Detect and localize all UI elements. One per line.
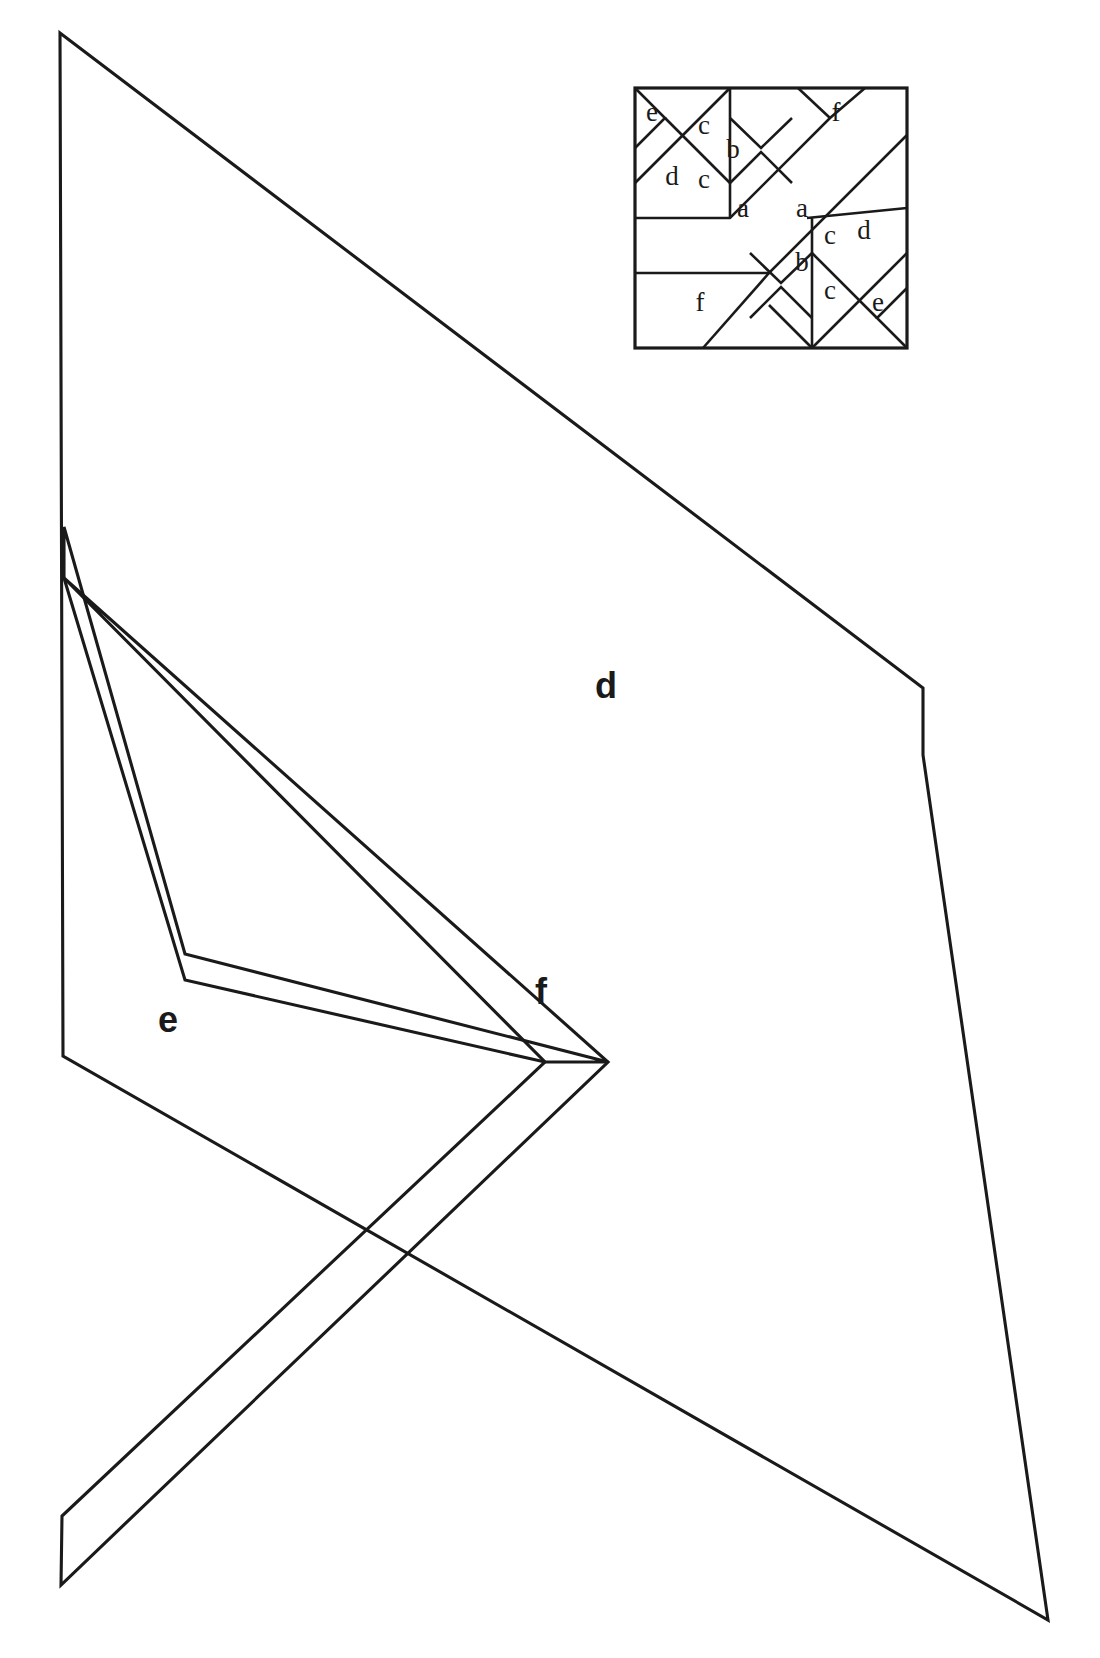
cut-f-top-right — [798, 88, 830, 118]
main-label-d: d — [595, 665, 617, 706]
cut-band-a-lower — [635, 135, 907, 273]
piece-f-outline — [61, 578, 608, 1585]
main-label-f: f — [535, 971, 548, 1012]
cut-d-bottom-diag — [812, 253, 877, 318]
inset-label-c-upper-left: c — [698, 110, 710, 140]
cut-b-lower-lower — [750, 287, 812, 318]
inset-label-a-left: a — [737, 193, 749, 223]
inset-labels: e f c b d c a a c d b f c e — [646, 97, 884, 317]
inset-square-key: e f c b d c a a c d b f c e — [630, 84, 914, 356]
main-piece-e — [64, 527, 608, 1062]
inset-label-a-right: a — [796, 193, 808, 223]
piece-e-outline — [64, 527, 608, 1062]
main-piece-f — [61, 578, 608, 1585]
inset-label-b-upper: b — [726, 134, 740, 164]
inset-label-b-lower: b — [795, 247, 809, 277]
main-dissection-figure: d e f — [0, 0, 1100, 1658]
inset-label-c-upper-lower: c — [698, 164, 710, 194]
main-label-e: e — [158, 999, 178, 1040]
inset-label-e-top: e — [646, 97, 658, 127]
cut-band-a-upper — [635, 88, 865, 218]
inset-label-d-upper: d — [665, 161, 679, 191]
inset-label-f-top: f — [832, 97, 841, 127]
inset-label-d-lower: d — [857, 215, 871, 245]
inset-label-c-lower-lower: c — [824, 275, 836, 305]
inset-svg: e f c b d c a a c d b f c e — [630, 84, 914, 356]
figure-canvas: d e f — [0, 0, 1100, 1658]
inset-label-c-lower-upper: c — [824, 220, 836, 250]
inset-label-e-bottom: e — [872, 287, 884, 317]
inset-label-f-bottom: f — [696, 287, 705, 317]
